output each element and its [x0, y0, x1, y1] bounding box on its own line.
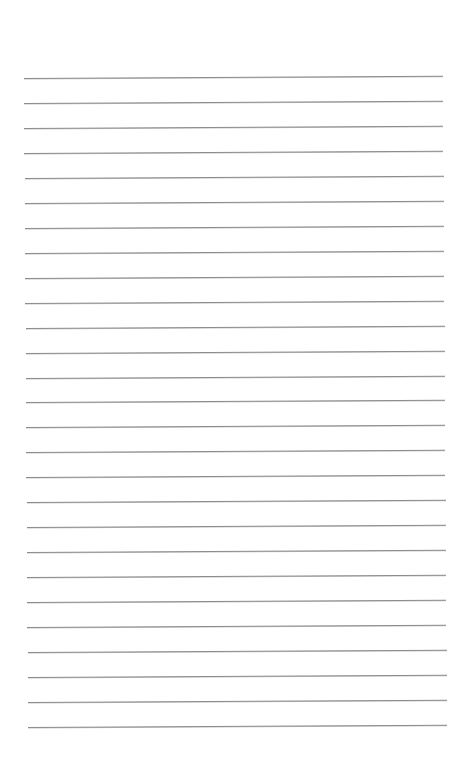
ruled-line	[26, 400, 445, 403]
ruled-line	[25, 201, 444, 204]
ruled-line	[27, 575, 446, 578]
ruled-line	[28, 675, 447, 678]
ruled-line	[24, 126, 443, 129]
ruled-line	[26, 425, 445, 428]
ruled-line	[25, 275, 444, 278]
ruled-line	[25, 251, 444, 254]
ruled-line	[25, 176, 444, 179]
ruled-line	[26, 350, 445, 353]
ruled-line	[26, 375, 445, 378]
ruled-line	[27, 625, 446, 628]
ruled-line	[26, 475, 445, 478]
ruled-line	[27, 550, 446, 553]
ruled-line	[27, 500, 446, 503]
ruled-line	[25, 300, 444, 303]
ruled-line	[28, 700, 447, 703]
ruled-line	[28, 725, 447, 728]
lined-paper-page	[0, 0, 464, 776]
ruled-line	[24, 76, 443, 79]
ruled-line	[24, 151, 443, 154]
ruled-line	[28, 650, 447, 653]
ruled-line	[27, 525, 446, 528]
ruled-line	[25, 226, 444, 229]
ruled-line	[26, 450, 445, 453]
ruled-line	[24, 101, 443, 104]
ruled-line	[26, 325, 445, 328]
ruled-line	[27, 600, 446, 603]
ruled-lines	[0, 0, 464, 776]
